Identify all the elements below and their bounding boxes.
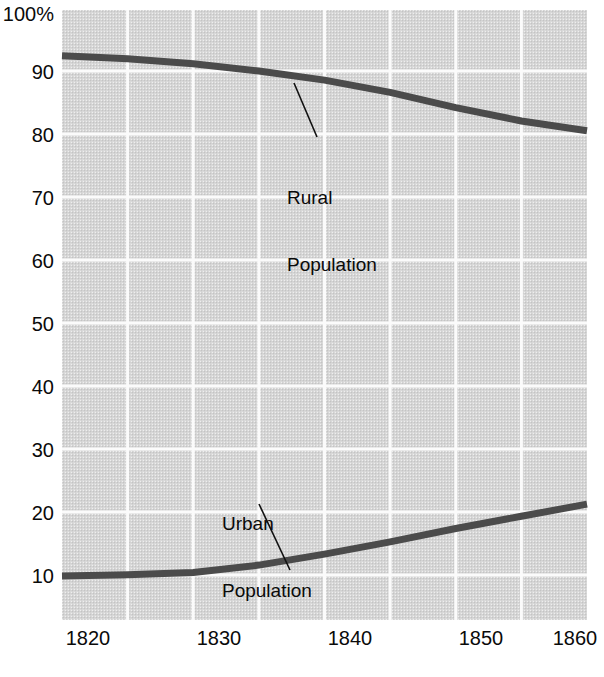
- population-line-chart: 100% 90 80 70 60 50 40 30 20 10: [0, 0, 604, 677]
- x-tick-label: 1820: [66, 628, 111, 648]
- rural-annotation-line1: Rural: [287, 187, 377, 209]
- rural-annotation: Rural Population: [287, 142, 377, 321]
- y-axis: 100% 90 80 70 60 50 40 30 20 10: [0, 0, 54, 677]
- x-tick-label: 1840: [328, 628, 373, 648]
- y-tick-label: 50: [32, 314, 54, 334]
- y-tick-label: 90: [32, 62, 54, 82]
- x-tick-label: 1860: [553, 628, 598, 648]
- urban-annotation-line2: Population: [222, 580, 312, 602]
- urban-annotation: Urban Population: [222, 468, 312, 647]
- y-tick-label: 70: [32, 188, 54, 208]
- y-tick-label: 20: [32, 503, 54, 523]
- rural-annotation-line2: Population: [287, 254, 377, 276]
- x-tick-label: 1830: [197, 628, 242, 648]
- urban-annotation-line1: Urban: [222, 513, 312, 535]
- x-tick-label: 1850: [459, 628, 504, 648]
- y-tick-label: 30: [32, 440, 54, 460]
- y-tick-label: 40: [32, 377, 54, 397]
- y-tick-label: 80: [32, 125, 54, 145]
- y-tick-label: 100%: [3, 4, 54, 24]
- y-tick-label: 10: [32, 566, 54, 586]
- rural-leader-line: [294, 83, 317, 137]
- y-tick-label: 60: [32, 251, 54, 271]
